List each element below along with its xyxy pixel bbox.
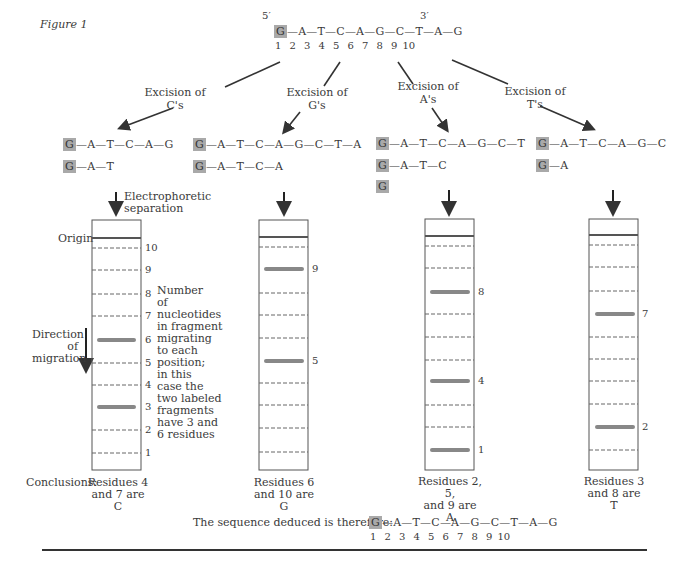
scale-3: 3	[145, 401, 151, 412]
band-label-t-2: 2	[642, 421, 648, 432]
nucleotide-note: Numberofnucleotidesin fragmentmigratingt…	[157, 285, 222, 441]
scale-7: 7	[145, 310, 151, 321]
band-label-g-9: 9	[312, 263, 318, 274]
scale-6: 6	[145, 334, 151, 345]
bottom-rule	[42, 549, 647, 551]
deduced-label: The sequence deduced is therefore:	[193, 517, 393, 529]
scale-8: 8	[145, 288, 151, 299]
conclusion-c: Residues 4and 7 areC	[86, 477, 150, 513]
band-label-a-4: 4	[478, 375, 484, 386]
band-label-a-8: 8	[478, 286, 484, 297]
scale-4: 4	[145, 379, 151, 390]
band-label-t-7: 7	[642, 308, 648, 319]
deduced-sequence: G—A—T—C—A—G—C—T—A—G	[369, 516, 558, 529]
conclusion-t: Residues 3and 8 areT	[582, 476, 646, 512]
scale-2: 2	[145, 424, 151, 435]
conclusion-g: Residues 6and 10 areG	[252, 477, 316, 513]
band-label-a-1: 1	[478, 444, 484, 455]
scale-5: 5	[145, 357, 151, 368]
deduced-positions: 12345678910	[366, 531, 511, 542]
scale-9: 9	[145, 264, 151, 275]
scale-1: 1	[145, 447, 151, 458]
band-label-g-5: 5	[312, 355, 318, 366]
scale-10: 10	[145, 242, 158, 253]
